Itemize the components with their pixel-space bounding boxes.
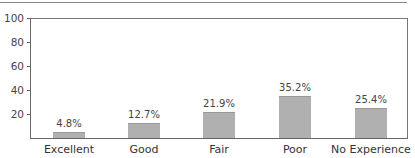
y-tick xyxy=(27,66,31,67)
y-tick xyxy=(27,90,31,91)
y-tick-label: 60 xyxy=(0,60,24,72)
top-rule xyxy=(0,2,407,3)
y-tick xyxy=(27,114,31,115)
y-tick-label: 40 xyxy=(0,84,24,96)
bar-fair xyxy=(203,112,235,138)
y-axis xyxy=(30,18,31,139)
bar-good xyxy=(128,123,160,138)
bar-poor xyxy=(279,96,311,138)
y-tick-label: 100 xyxy=(0,12,24,24)
value-label: 35.2% xyxy=(265,82,325,94)
bar-no-experience xyxy=(355,108,387,138)
bar-excellent xyxy=(53,132,85,138)
value-label: 4.8% xyxy=(39,118,99,130)
y-tick xyxy=(27,42,31,43)
y-tick xyxy=(27,18,31,19)
x-axis xyxy=(30,138,408,139)
y-tick-label: 80 xyxy=(0,36,24,48)
value-label: 21.9% xyxy=(189,98,249,110)
value-label: 12.7% xyxy=(114,109,174,121)
y-tick-label: 20 xyxy=(0,108,24,120)
category-label: No Experience xyxy=(326,143,415,156)
value-label: 25.4% xyxy=(341,94,401,106)
